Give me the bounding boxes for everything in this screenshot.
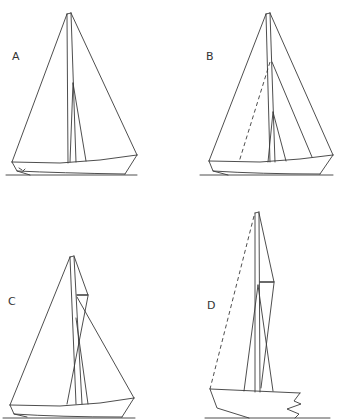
mast-a <box>67 14 68 163</box>
jib-luff-a <box>12 14 67 162</box>
main-luff-b <box>209 14 266 161</box>
leech-b <box>270 13 333 155</box>
jib-luff-c <box>10 257 70 405</box>
deck-a <box>12 155 137 163</box>
boat-a <box>6 13 137 175</box>
deck-c <box>10 398 134 406</box>
broken-stern-d <box>287 393 301 418</box>
main-leech-a <box>71 13 137 155</box>
forestay-dashed-b <box>239 62 270 162</box>
deck-b <box>209 155 333 162</box>
boat-c <box>3 256 135 418</box>
topsail-d <box>259 213 274 282</box>
sailboat-rig-diagram <box>0 0 337 419</box>
main-leech-c <box>77 297 134 398</box>
boat-b <box>200 13 333 175</box>
mast-b <box>266 14 270 162</box>
boat-d <box>205 212 330 418</box>
